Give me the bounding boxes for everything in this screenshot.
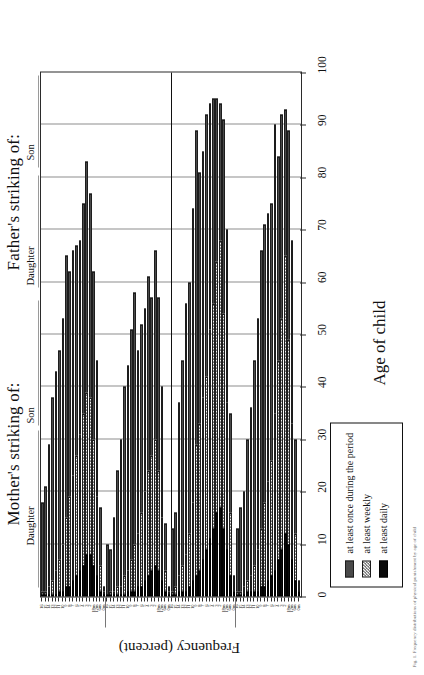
table-row [233,72,236,596]
x-tick-mark [151,597,152,601]
table-row [215,72,218,596]
group-separator [235,597,236,627]
table-row [198,72,201,596]
bar-daily [226,549,229,596]
plot-area [40,71,302,597]
x-tick-mark [161,597,162,601]
x-tick-mark [48,597,49,601]
bar-once [253,360,256,596]
bar-once [239,507,242,596]
bar-once [174,512,177,596]
x-tick-mark [134,597,135,601]
x-tick-mark [233,597,234,601]
table-row [44,72,47,596]
table-row [99,72,102,596]
y-tick-mark [300,124,306,125]
bar-daily [236,594,239,596]
x-tick-mark [192,597,193,601]
x-tick-mark [253,597,254,601]
bar-weekly [274,413,277,596]
table-row [96,72,99,596]
table-row [195,72,198,596]
table-row [260,72,263,596]
x-tick-mark [243,597,244,601]
x-tick-mark [45,597,46,601]
table-row [55,72,58,596]
x-tick-mark [216,597,217,601]
panel-title-mother: Mother's striking of: [4,382,24,525]
x-tick-mark [127,597,128,601]
x-tick-mark [247,597,248,601]
x-tick-mark [117,597,118,601]
bar-daily [294,580,297,596]
y-tick-mark [300,282,306,283]
bar-once [171,528,174,596]
bar-daily [260,586,263,596]
table-row [246,72,249,596]
table-row [116,72,119,596]
table-row [236,72,239,596]
bar-daily [89,554,92,596]
table-row [291,72,294,596]
y-tick-mark [300,491,306,492]
bar-once [120,439,123,596]
y-tick-mark [300,177,306,178]
bar-daily [233,591,236,596]
table-row [164,72,167,596]
x-tick-mark [209,597,210,601]
bar-daily [106,594,109,596]
bar-daily [274,570,277,596]
table-row [92,72,95,596]
table-row [150,72,153,596]
x-tick-mark [144,597,145,601]
table-row [229,72,232,596]
x-tick-mark [93,597,94,601]
legend-label-weekly: at least weekly [361,494,372,553]
table-row [62,72,65,596]
table-row [205,72,208,596]
bar-once [48,444,51,596]
x-tick-mark [141,597,142,601]
x-tick-mark [267,597,268,601]
table-row [294,72,297,596]
bar-daily [185,591,188,596]
table-row [127,72,130,596]
x-tick-mark [55,597,56,601]
y-tick-mark [300,72,306,73]
x-tick-mark [158,597,159,601]
x-tick-mark [137,597,138,601]
x-tick-mark [106,597,107,601]
bar-weekly [65,517,68,596]
x-tick-mark [291,597,292,601]
panel-title-father: Father's striking of: [4,133,24,270]
x-tick-mark [82,597,83,601]
x-tick-mark [229,597,230,601]
table-row [41,72,44,596]
group-label-father-daughter: Daughter [25,246,36,285]
x-tick-mark [171,597,172,601]
group-underline [38,430,39,587]
table-row [120,72,123,596]
x-tick-mark [274,597,275,601]
bar-daily [79,570,82,596]
bar-weekly [62,544,65,596]
table-row [209,72,212,596]
bar-daily [198,570,201,596]
x-tick-mark [110,597,111,601]
bar-daily [250,591,253,596]
table-row [106,72,109,596]
bar-daily [284,533,287,596]
bar-daily [212,528,215,596]
bar-daily [51,594,54,596]
x-tick-mark [69,597,70,601]
bar-once [41,502,44,596]
bar-once [130,329,133,596]
x-tick-mark [298,597,299,601]
table-row [109,72,112,596]
bar-once [116,470,119,596]
bar-once [127,365,130,596]
table-row [277,72,280,596]
x-tick-mark [113,597,114,601]
bar-daily [181,591,184,596]
x-tick-mark [62,597,63,601]
